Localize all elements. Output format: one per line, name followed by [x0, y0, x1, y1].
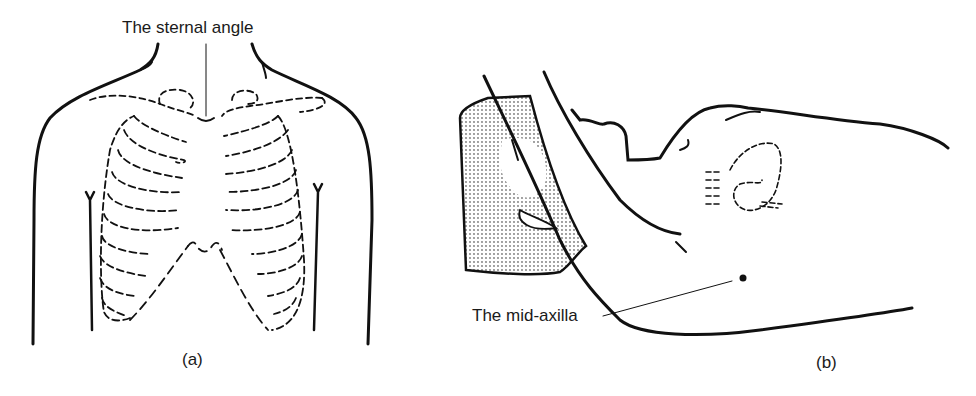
- anatomy-figure: The sternal angle (a): [0, 0, 976, 396]
- mid-axilla-dot: [740, 275, 747, 282]
- mid-axilla-pointer: [603, 281, 732, 316]
- panel-b-drawing: [0, 0, 976, 396]
- mid-axilla-label: The mid-axilla: [472, 306, 578, 326]
- panel-b-caption: (b): [816, 353, 837, 373]
